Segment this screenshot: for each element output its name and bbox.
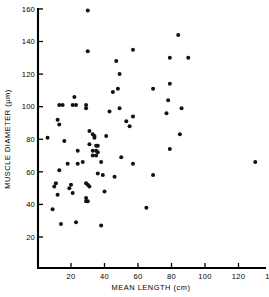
data-point xyxy=(168,56,172,60)
data-point xyxy=(94,154,98,158)
data-point xyxy=(56,193,60,197)
x-tick-label: 80 xyxy=(167,272,176,281)
y-tick-label: 100 xyxy=(22,102,35,111)
data-point xyxy=(118,106,122,110)
data-point xyxy=(114,59,118,63)
data-point xyxy=(96,171,100,175)
data-point xyxy=(71,191,75,195)
data-point xyxy=(96,144,100,148)
chart-canvas: 20406080100120140160 20406080100120140 M… xyxy=(0,0,269,297)
data-point xyxy=(81,160,85,164)
y-tick-label: 20 xyxy=(26,233,35,242)
x-tick-label: 100 xyxy=(198,272,211,281)
data-point xyxy=(113,175,117,179)
y-tick-label: 80 xyxy=(26,135,35,144)
data-point xyxy=(57,123,61,127)
x-tick-label: 20 xyxy=(67,272,76,281)
axis-lines xyxy=(38,9,265,268)
data-point xyxy=(111,90,115,94)
data-point xyxy=(59,222,63,226)
data-point xyxy=(46,136,50,140)
data-point xyxy=(57,168,61,172)
data-point xyxy=(166,98,170,102)
data-point xyxy=(74,220,78,224)
axes xyxy=(38,9,265,268)
data-point xyxy=(180,106,184,110)
data-point xyxy=(118,72,122,76)
data-point xyxy=(76,162,80,166)
y-tick-label: 40 xyxy=(26,200,35,209)
data-point xyxy=(67,186,71,190)
x-tick-label: 40 xyxy=(100,272,109,281)
data-point xyxy=(87,142,91,146)
data-point xyxy=(186,56,190,60)
data-point xyxy=(108,110,112,114)
data-point xyxy=(61,103,65,107)
data-point xyxy=(84,106,88,110)
data-point xyxy=(119,155,123,159)
data-point xyxy=(87,129,91,133)
data-point xyxy=(116,87,120,91)
y-tick-label: 140 xyxy=(22,37,35,46)
y-axis-title: MUSCLE DIAMETER (µm) xyxy=(3,89,12,188)
data-point xyxy=(87,185,91,189)
data-point xyxy=(86,9,90,13)
data-point xyxy=(56,118,60,122)
data-point xyxy=(51,207,55,211)
data-points xyxy=(46,9,258,228)
x-tick-label: 60 xyxy=(134,272,143,281)
data-point xyxy=(74,103,78,107)
y-axis-ticks: 20406080100120140160 xyxy=(22,5,43,242)
data-point xyxy=(151,173,155,177)
data-point xyxy=(124,119,128,123)
data-point xyxy=(151,87,155,91)
data-point xyxy=(176,33,180,37)
data-point xyxy=(72,95,76,99)
data-point xyxy=(253,160,257,164)
data-point xyxy=(103,189,107,193)
data-point xyxy=(92,136,96,140)
data-point xyxy=(168,82,172,86)
data-point xyxy=(52,185,56,189)
data-point xyxy=(76,149,80,153)
data-point xyxy=(164,111,168,115)
data-point xyxy=(131,48,135,52)
data-point xyxy=(66,162,70,166)
data-point xyxy=(131,114,135,118)
x-axis-ticks: 20406080100120140 xyxy=(67,263,269,281)
x-tick-label: 140 xyxy=(265,272,269,281)
data-point xyxy=(104,134,108,138)
y-tick-label: 120 xyxy=(22,70,35,79)
data-point xyxy=(86,49,90,53)
data-point xyxy=(62,139,66,143)
y-tick-label: 60 xyxy=(26,168,35,177)
data-point xyxy=(178,132,182,136)
data-point xyxy=(144,206,148,210)
scatter-plot-figure: 20406080100120140160 20406080100120140 M… xyxy=(0,0,269,297)
y-tick-label: 160 xyxy=(22,5,35,14)
x-tick-label: 120 xyxy=(232,272,245,281)
data-point xyxy=(128,124,132,128)
data-point xyxy=(86,199,90,203)
data-point xyxy=(101,173,105,177)
data-point xyxy=(99,224,103,228)
data-point xyxy=(131,162,135,166)
data-point xyxy=(168,147,172,151)
x-axis-title: MEAN LENGTH (cm) xyxy=(111,283,190,292)
data-point xyxy=(99,160,103,164)
